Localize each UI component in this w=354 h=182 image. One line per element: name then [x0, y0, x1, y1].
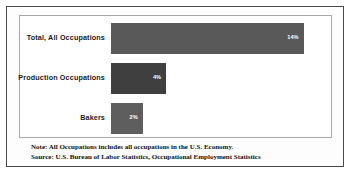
bar-track: 2% — [111, 99, 331, 137]
footnote-source: Source: U.S. Bureau of Labor Statistics,… — [31, 153, 331, 163]
bar-row: Production Occupations 4% — [20, 59, 331, 97]
bar-value-label-production-occupations: 4% — [153, 75, 161, 81]
bar-track: 4% — [111, 59, 331, 97]
bar-category-label-bakers: Bakers — [0, 114, 105, 121]
chart-footnotes: Note: All Occupations includes all occup… — [31, 143, 331, 163]
bar-category-label-production-occupations: Production Occupations — [0, 74, 105, 81]
bar-row: Total, All Occupations 14% — [20, 19, 331, 57]
bar-row: Bakers 2% — [20, 99, 331, 137]
bar-value-label-bakers: 2% — [130, 115, 138, 121]
bar-bakers[interactable]: 2% — [111, 103, 143, 134]
chart-plot-area: Total, All Occupations 14% Production Oc… — [19, 15, 332, 138]
bar-category-label-total-all-occupations: Total, All Occupations — [0, 34, 105, 41]
bar-value-label-total-all-occupations: 14% — [287, 35, 298, 41]
bar-total-all-occupations[interactable]: 14% — [111, 23, 304, 54]
chart-figure-card: Total, All Occupations 14% Production Oc… — [6, 6, 344, 167]
bar-track: 14% — [111, 19, 331, 57]
footnote-note: Note: All Occupations includes all occup… — [31, 143, 331, 153]
bar-production-occupations[interactable]: 4% — [111, 63, 166, 94]
